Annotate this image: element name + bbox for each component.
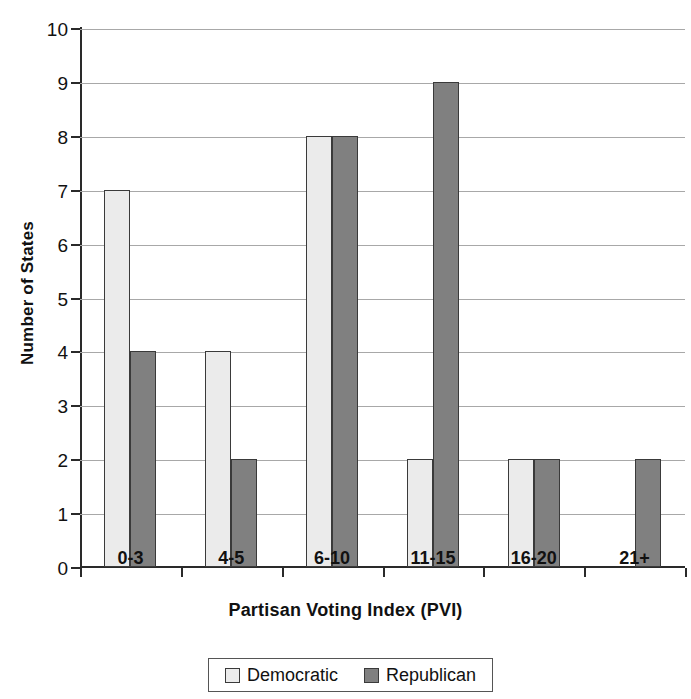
y-tick-label: 4 <box>28 343 68 362</box>
y-tick-mark <box>71 459 80 461</box>
bar-democratic-6-10 <box>306 136 332 567</box>
y-tick-mark <box>71 28 80 30</box>
bar-republican-11-15 <box>433 82 459 567</box>
gridline <box>80 299 685 300</box>
x-tick-mark <box>584 568 586 577</box>
x-tick-mark <box>282 568 284 577</box>
bar-democratic-4-5 <box>205 351 231 567</box>
legend-swatch-icon <box>364 668 379 683</box>
y-tick-label: 7 <box>28 182 68 201</box>
y-tick-mark <box>71 351 80 353</box>
y-tick-label: 1 <box>28 505 68 524</box>
x-tick-label: 11-15 <box>383 548 484 569</box>
x-tick-mark <box>80 568 82 577</box>
y-tick-mark <box>71 298 80 300</box>
chart-legend: DemocraticRepublican <box>208 658 493 692</box>
y-tick-label: 10 <box>28 20 68 39</box>
x-tick-mark <box>181 568 183 577</box>
gridline <box>80 83 685 84</box>
y-tick-label: 8 <box>28 128 68 147</box>
legend-item-democratic: Democratic <box>225 665 338 686</box>
y-tick-label: 6 <box>28 236 68 255</box>
bar-chart-figure: Number of States 012345678910 0-34-56-10… <box>0 0 691 699</box>
bar-democratic-0-3 <box>104 190 130 567</box>
y-tick-label: 5 <box>28 290 68 309</box>
legend-swatch-icon <box>225 668 240 683</box>
gridline <box>80 137 685 138</box>
x-tick-mark <box>685 568 687 577</box>
bar-republican-0-3 <box>130 351 156 567</box>
gridline <box>80 406 685 407</box>
y-tick-mark <box>71 82 80 84</box>
y-tick-label: 0 <box>28 559 68 578</box>
y-tick-label: 9 <box>28 74 68 93</box>
x-tick-mark <box>483 568 485 577</box>
gridline <box>80 460 685 461</box>
x-tick-label: 0-3 <box>80 548 181 569</box>
y-tick-mark <box>71 244 80 246</box>
plot-area: 012345678910 <box>80 29 685 568</box>
gridline <box>80 245 685 246</box>
y-tick-mark <box>71 136 80 138</box>
y-tick-label: 2 <box>28 451 68 470</box>
bar-republican-6-10 <box>332 136 358 567</box>
legend-label: Republican <box>386 665 476 686</box>
y-tick-label: 3 <box>28 397 68 416</box>
legend-label: Democratic <box>247 665 338 686</box>
gridline <box>80 191 685 192</box>
y-tick-mark <box>71 513 80 515</box>
gridline <box>80 352 685 353</box>
x-tick-label: 4-5 <box>181 548 282 569</box>
y-tick-mark <box>71 190 80 192</box>
x-tick-label: 6-10 <box>282 548 383 569</box>
gridline <box>80 29 685 30</box>
x-tick-label: 16-20 <box>483 548 584 569</box>
gridline <box>80 514 685 515</box>
y-tick-mark <box>71 405 80 407</box>
legend-item-republican: Republican <box>364 665 476 686</box>
x-tick-label: 21+ <box>584 548 685 569</box>
x-axis-title: Partisan Voting Index (PVI) <box>0 600 691 621</box>
y-tick-mark <box>71 567 80 569</box>
x-tick-mark <box>383 568 385 577</box>
